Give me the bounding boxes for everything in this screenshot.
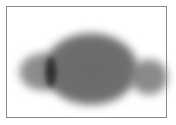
image-frame (6, 6, 167, 118)
dark-spot (45, 57, 57, 87)
central-mass (44, 33, 138, 105)
